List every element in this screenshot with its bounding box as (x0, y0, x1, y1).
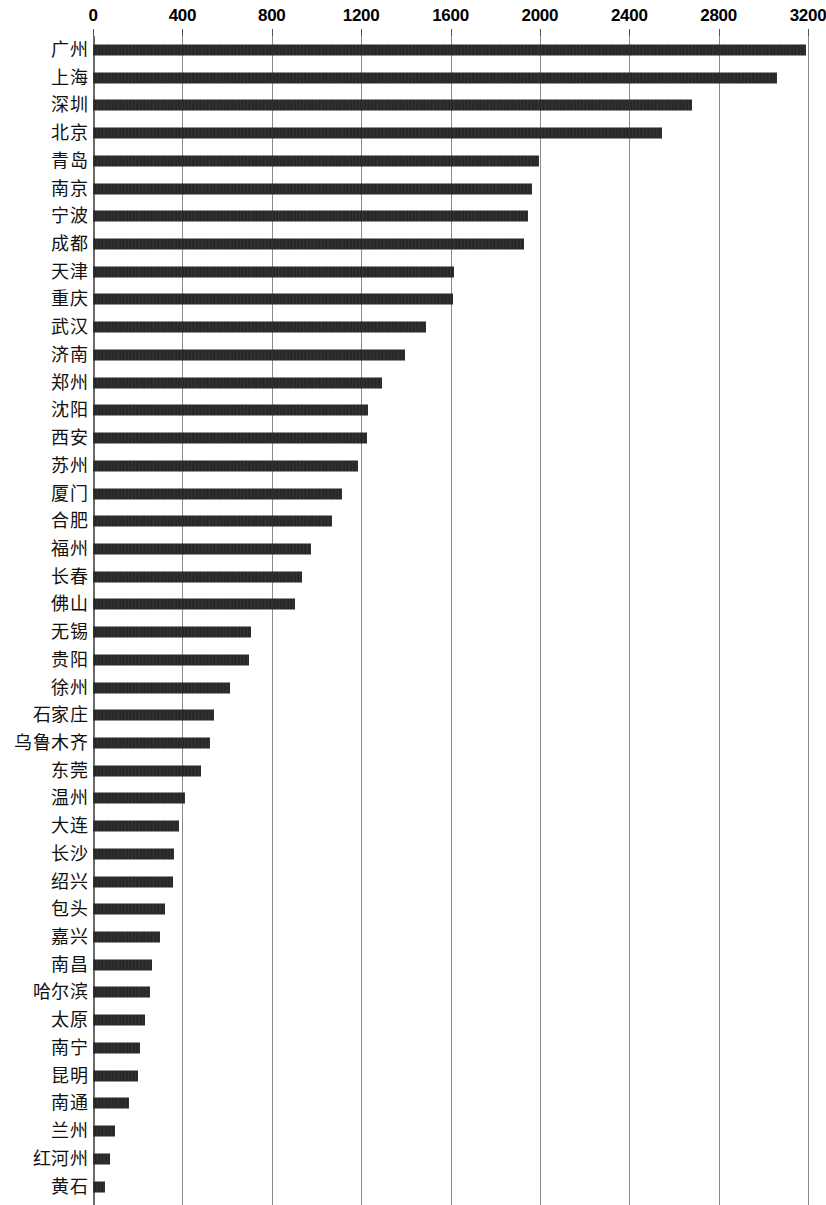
category-label: 厦门 (51, 485, 88, 503)
bar (93, 128, 662, 139)
bar (93, 543, 311, 554)
bar (93, 1042, 140, 1053)
category-label: 乌鲁木齐 (14, 734, 88, 752)
category-label: 黄石 (51, 1178, 88, 1196)
category-label: 济南 (51, 346, 88, 364)
bar (93, 904, 165, 915)
x-tick-mark (808, 29, 809, 36)
bar-row: 广州 (0, 36, 825, 64)
bar-row: 天津 (0, 258, 825, 286)
category-label: 贵阳 (51, 651, 88, 669)
category-label: 成都 (51, 235, 88, 253)
bar (93, 100, 692, 111)
category-label: 无锡 (51, 623, 88, 641)
bar (93, 848, 174, 859)
category-label: 徐州 (51, 679, 88, 697)
bar (93, 45, 806, 56)
category-label: 深圳 (51, 96, 88, 114)
bar (93, 405, 368, 416)
category-label: 广州 (51, 41, 88, 59)
bar-row: 成都 (0, 230, 825, 258)
category-label: 苏州 (51, 457, 88, 475)
bar-row: 长春 (0, 563, 825, 591)
plot-area: 广州上海深圳北京青岛南京宁波成都天津重庆武汉济南郑州沈阳西安苏州厦门合肥福州长春… (0, 36, 825, 1205)
bar (93, 821, 179, 832)
category-label: 沈阳 (51, 401, 88, 419)
bar (93, 654, 249, 665)
bar-row: 昆明 (0, 1062, 825, 1090)
x-tick-label: 400 (169, 6, 196, 26)
category-label: 长沙 (51, 845, 88, 863)
bar-row: 太原 (0, 1006, 825, 1034)
category-label: 福州 (51, 540, 88, 558)
x-tick-mark (629, 29, 630, 36)
x-tick-label: 800 (258, 6, 285, 26)
bar-row: 上海 (0, 64, 825, 92)
bar-row: 宁波 (0, 202, 825, 230)
x-tick-mark (540, 29, 541, 36)
bar-row: 南通 (0, 1089, 825, 1117)
bar (93, 322, 426, 333)
bar (93, 349, 405, 360)
category-label: 哈尔滨 (33, 983, 89, 1001)
bar (93, 987, 150, 998)
category-label: 昆明 (51, 1067, 88, 1085)
bar (93, 1070, 138, 1081)
category-label: 包头 (51, 900, 88, 918)
bar-row: 福州 (0, 535, 825, 563)
category-label: 天津 (51, 263, 88, 281)
bar-row: 黄石 (0, 1173, 825, 1201)
bar-row: 济南 (0, 341, 825, 369)
bar (93, 932, 160, 943)
bar-row: 沈阳 (0, 396, 825, 424)
bar-row: 徐州 (0, 674, 825, 702)
bar-row: 石家庄 (0, 701, 825, 729)
bar (93, 793, 185, 804)
category-label: 太原 (51, 1011, 88, 1029)
bar-row: 武汉 (0, 313, 825, 341)
bar-row: 南昌 (0, 951, 825, 979)
bar (93, 599, 295, 610)
x-tick-label: 0 (88, 6, 97, 26)
x-tick-mark (361, 29, 362, 36)
bar-row: 长沙 (0, 840, 825, 868)
bar (93, 1126, 115, 1137)
category-label: 石家庄 (33, 706, 89, 724)
bar-row: 郑州 (0, 369, 825, 397)
bar-row: 重庆 (0, 285, 825, 313)
bar (93, 239, 524, 250)
bar (93, 294, 453, 305)
bar (93, 211, 528, 222)
category-label: 嘉兴 (51, 928, 88, 946)
bar (93, 433, 367, 444)
bar-row: 北京 (0, 119, 825, 147)
bar-row: 大连 (0, 812, 825, 840)
category-label: 红河州 (33, 1150, 89, 1168)
bar (93, 1181, 105, 1192)
x-tick-label: 2000 (522, 6, 559, 26)
x-tick-mark (182, 29, 183, 36)
bar (93, 876, 173, 887)
bar-row: 绍兴 (0, 868, 825, 896)
bar-row: 东莞 (0, 757, 825, 785)
category-label: 北京 (51, 124, 88, 142)
x-tick-label: 2800 (700, 6, 737, 26)
x-tick-label: 1200 (343, 6, 380, 26)
bar-row: 南京 (0, 175, 825, 203)
bar-row: 红河州 (0, 1145, 825, 1173)
category-label: 兰州 (51, 1122, 88, 1140)
bar-row: 合肥 (0, 507, 825, 535)
bar-row: 苏州 (0, 452, 825, 480)
category-label: 南昌 (51, 956, 88, 974)
bar-row: 包头 (0, 895, 825, 923)
bar (93, 765, 201, 776)
category-label: 长春 (51, 568, 88, 586)
bar (93, 72, 777, 83)
bar (93, 183, 532, 194)
bar (93, 571, 302, 582)
bar-row: 兰州 (0, 1117, 825, 1145)
x-tick-label: 1600 (432, 6, 469, 26)
bar (93, 1098, 129, 1109)
bar-row: 佛山 (0, 590, 825, 618)
